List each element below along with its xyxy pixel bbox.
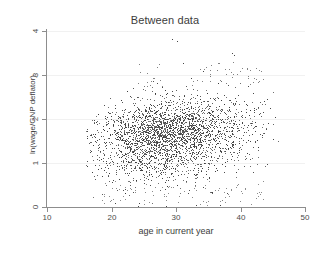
scatter-point bbox=[150, 85, 151, 86]
scatter-point bbox=[264, 133, 265, 134]
scatter-point bbox=[180, 104, 181, 105]
scatter-point bbox=[251, 204, 252, 205]
scatter-point bbox=[164, 196, 165, 197]
scatter-point bbox=[183, 121, 184, 122]
scatter-point bbox=[210, 120, 211, 121]
scatter-point bbox=[96, 116, 97, 117]
scatter-point bbox=[153, 142, 154, 143]
scatter-point bbox=[187, 136, 188, 137]
scatter-point bbox=[182, 117, 183, 118]
scatter-point bbox=[187, 114, 188, 115]
scatter-point bbox=[187, 104, 188, 105]
scatter-point bbox=[134, 99, 135, 100]
scatter-point bbox=[194, 153, 195, 154]
scatter-point bbox=[147, 138, 148, 139]
scatter-point bbox=[210, 127, 211, 128]
scatter-point bbox=[184, 191, 185, 192]
scatter-point bbox=[252, 123, 253, 124]
scatter-point bbox=[118, 145, 119, 146]
scatter-point bbox=[261, 71, 262, 72]
scatter-point bbox=[212, 144, 213, 145]
scatter-point bbox=[154, 134, 155, 135]
scatter-point bbox=[215, 152, 216, 153]
scatter-point bbox=[137, 144, 138, 145]
scatter-point bbox=[181, 164, 182, 165]
scatter-point bbox=[208, 169, 209, 170]
scatter-point bbox=[126, 119, 127, 120]
scatter-point bbox=[200, 69, 201, 70]
scatter-point bbox=[209, 181, 210, 182]
chart-figure: Between data 01234 1020304050 ln(wage/GN… bbox=[0, 0, 330, 254]
scatter-point bbox=[227, 126, 228, 127]
scatter-point bbox=[98, 169, 99, 170]
scatter-point bbox=[192, 134, 193, 135]
scatter-point bbox=[235, 98, 236, 99]
y-tick-mark bbox=[42, 31, 46, 32]
scatter-point bbox=[199, 136, 200, 137]
scatter-point bbox=[167, 161, 168, 162]
scatter-point bbox=[204, 156, 205, 157]
scatter-point bbox=[131, 133, 132, 134]
scatter-point bbox=[172, 125, 173, 126]
scatter-point bbox=[131, 158, 132, 159]
scatter-point bbox=[175, 118, 176, 119]
scatter-point bbox=[242, 115, 243, 116]
scatter-point bbox=[176, 155, 177, 156]
scatter-point bbox=[244, 125, 245, 126]
scatter-point bbox=[119, 129, 120, 130]
scatter-point bbox=[138, 97, 139, 98]
scatter-point bbox=[226, 131, 227, 132]
scatter-point bbox=[273, 139, 274, 140]
scatter-point bbox=[102, 176, 103, 177]
scatter-point bbox=[140, 127, 141, 128]
scatter-point bbox=[225, 127, 226, 128]
scatter-point bbox=[106, 148, 107, 149]
scatter-point bbox=[176, 103, 177, 104]
scatter-point bbox=[158, 132, 159, 133]
scatter-point bbox=[142, 170, 143, 171]
scatter-point bbox=[211, 157, 212, 158]
scatter-point bbox=[131, 168, 132, 169]
scatter-point bbox=[123, 160, 124, 161]
scatter-point bbox=[228, 141, 229, 142]
scatter-point bbox=[209, 164, 210, 165]
scatter-point bbox=[175, 107, 176, 108]
scatter-point bbox=[186, 116, 187, 117]
scatter-point bbox=[154, 157, 155, 158]
scatter-point bbox=[138, 135, 139, 136]
scatter-point bbox=[146, 171, 147, 172]
scatter-point bbox=[159, 142, 160, 143]
scatter-point bbox=[142, 138, 143, 139]
scatter-point bbox=[167, 133, 168, 134]
scatter-point bbox=[203, 125, 204, 126]
scatter-point bbox=[196, 190, 197, 191]
scatter-point bbox=[169, 186, 170, 187]
scatter-point bbox=[205, 139, 206, 140]
scatter-point bbox=[223, 130, 224, 131]
scatter-point bbox=[236, 177, 237, 178]
scatter-point bbox=[151, 81, 152, 82]
scatter-point bbox=[196, 117, 197, 118]
scatter-point bbox=[124, 110, 125, 111]
scatter-point bbox=[189, 136, 190, 137]
scatter-point bbox=[122, 168, 123, 169]
scatter-point bbox=[170, 127, 171, 128]
scatter-point bbox=[170, 143, 171, 144]
scatter-point bbox=[173, 101, 174, 102]
scatter-point bbox=[147, 99, 148, 100]
scatter-point bbox=[168, 158, 169, 159]
scatter-point bbox=[123, 138, 124, 139]
scatter-point bbox=[160, 80, 161, 81]
scatter-point bbox=[97, 140, 98, 141]
scatter-point bbox=[141, 134, 142, 135]
scatter-point bbox=[207, 131, 208, 132]
scatter-point bbox=[220, 131, 221, 132]
scatter-point bbox=[151, 139, 152, 140]
scatter-point bbox=[149, 149, 150, 150]
scatter-point bbox=[133, 122, 134, 123]
scatter-point bbox=[192, 85, 193, 86]
x-axis-title: age in current year bbox=[47, 226, 305, 236]
scatter-point bbox=[165, 128, 166, 129]
scatter-point bbox=[125, 173, 126, 174]
scatter-point bbox=[197, 177, 198, 178]
